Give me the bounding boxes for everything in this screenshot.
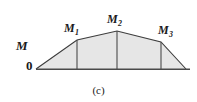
- point-label-m3-base: M: [158, 23, 169, 37]
- point-label-m2-subscript: 2: [118, 19, 122, 28]
- point-label-m2-base: M: [107, 12, 118, 26]
- point-label-m3-subscript: 3: [169, 30, 173, 39]
- point-label-m1-base: M: [64, 21, 75, 35]
- point-label-m3: M3: [158, 24, 173, 36]
- origin-label-zero: 0: [26, 59, 33, 72]
- point-label-m1-subscript: 1: [75, 28, 79, 37]
- point-label-m2: M2: [107, 13, 122, 25]
- point-label-m1: M1: [64, 22, 79, 34]
- axis-label-m: M: [16, 39, 28, 52]
- figure-caption: (c): [0, 84, 197, 96]
- moment-diagram-figure: M 0 M1 M2 M3 (c): [0, 0, 197, 102]
